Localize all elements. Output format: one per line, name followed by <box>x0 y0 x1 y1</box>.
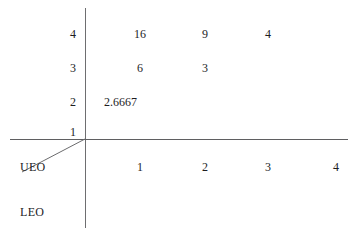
cell-row4-col3: 4 <box>265 28 271 41</box>
x-tick-label-4: 4 <box>333 161 339 174</box>
x-tick-label-2: 2 <box>202 161 208 174</box>
annotation-ueo: UEO <box>20 161 46 174</box>
y-tick-label-2: 2 <box>70 96 76 109</box>
origin-diagonal-ray <box>0 0 358 239</box>
cell-row3-col2: 3 <box>202 62 208 75</box>
x-tick-label-3: 3 <box>265 161 271 174</box>
y-tick-label-4: 4 <box>70 28 76 41</box>
y-tick-label-1: 1 <box>70 126 76 139</box>
y-tick-label-3: 3 <box>70 62 76 75</box>
cell-row3-col1: 6 <box>137 62 143 75</box>
x-tick-label-1: 1 <box>137 161 143 174</box>
horizontal-axis-line <box>10 139 348 140</box>
cell-row4-col1: 16 <box>134 28 146 41</box>
cell-row2-col1: 2.6667 <box>104 96 137 109</box>
cartesian-grid-figure: 4 3 2 1 1 2 3 4 16 9 4 6 3 2.6667 UEO LE… <box>0 0 358 239</box>
vertical-axis-line <box>85 8 86 228</box>
annotation-leo: LEO <box>20 206 44 219</box>
cell-row4-col2: 9 <box>202 28 208 41</box>
